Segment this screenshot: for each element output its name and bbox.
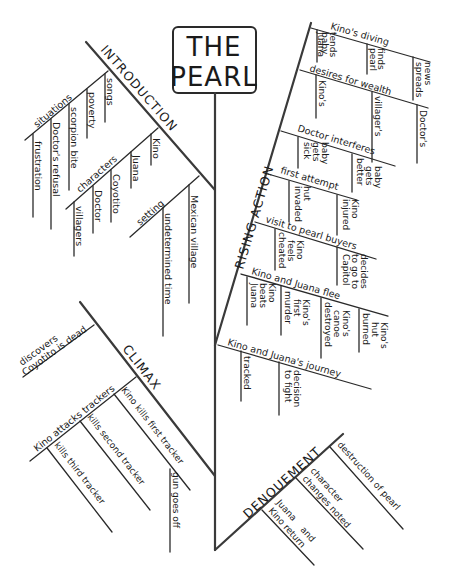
title-line-2: PEARL bbox=[170, 62, 257, 92]
item-line bbox=[47, 448, 112, 532]
title-box: THE PEARL bbox=[170, 27, 257, 93]
title-line-1: THE bbox=[186, 32, 242, 62]
juana-tends-baby-stack: tends baby bbox=[320, 32, 338, 57]
event-item: Capitol bbox=[341, 254, 351, 286]
character-item: Kino bbox=[151, 138, 162, 159]
item-line bbox=[80, 421, 150, 510]
plot-diagram: THE PEARL INTRODUCTION situations songs … bbox=[0, 0, 452, 582]
denouement-section: DENOUEMENT destruction of pearl characte… bbox=[215, 434, 403, 565]
event-item: destroyed bbox=[323, 302, 333, 347]
event-item: to fight bbox=[283, 370, 293, 403]
setting-item: Mexican village bbox=[189, 195, 200, 269]
climax-item: kills third tracker bbox=[52, 440, 107, 506]
event-item: sick bbox=[302, 142, 312, 160]
event-item: burned bbox=[361, 313, 371, 345]
situation-item: poverty bbox=[87, 92, 98, 129]
event-item: Doctor's bbox=[418, 110, 428, 148]
attacks-label: Kino attacks trackers bbox=[31, 383, 116, 454]
denouement-item: destruction of pearl bbox=[336, 440, 403, 512]
event-item: tracked bbox=[242, 356, 252, 390]
character-item: Juana bbox=[131, 154, 142, 182]
situation-item: scorpion bite bbox=[69, 107, 80, 169]
stack-word: baby bbox=[320, 32, 330, 55]
event-item: better bbox=[355, 158, 365, 186]
setting-label: setting bbox=[134, 197, 166, 227]
gun-label: gun goes off bbox=[171, 472, 181, 529]
event-item: murder bbox=[283, 291, 293, 324]
situation-item: songs bbox=[105, 78, 116, 106]
setting-item: undetermined time bbox=[163, 213, 174, 305]
event-item: Kino's bbox=[317, 80, 327, 107]
character-item: Coyotito bbox=[111, 174, 122, 214]
event-item: spreads bbox=[414, 62, 424, 98]
event-item: invaded bbox=[293, 186, 303, 222]
event-item: injured bbox=[341, 199, 351, 230]
situation-item: Doctor's refusal bbox=[51, 122, 62, 197]
climax-section: CLIMAX discovers Coyotito is dead Kino a… bbox=[17, 302, 215, 552]
character-item: villagers bbox=[74, 206, 85, 246]
event-item: pearl bbox=[368, 48, 378, 71]
situation-item: frustration bbox=[33, 141, 44, 191]
event-item: cheated bbox=[277, 232, 287, 268]
event-item: Juana bbox=[249, 282, 259, 308]
character-item: Doctor bbox=[93, 190, 104, 222]
event-item: villager's bbox=[373, 96, 383, 137]
